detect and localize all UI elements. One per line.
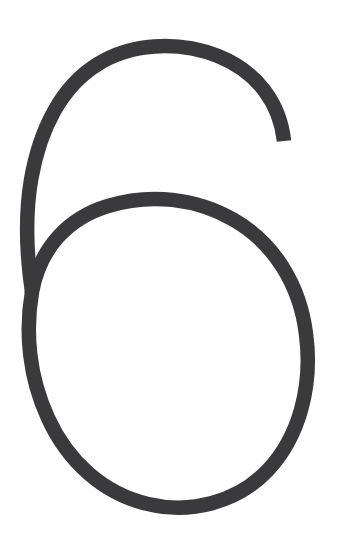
glyph-canvas [0,0,347,535]
digit-six-glyph [0,0,347,535]
background-rect [0,0,347,535]
